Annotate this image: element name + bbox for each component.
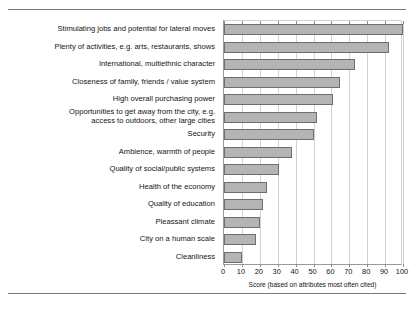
chart-figure: Stimulating jobs and potential for later… <box>0 0 413 309</box>
top-divider-rule <box>8 9 406 10</box>
gridline <box>403 21 404 264</box>
bottom-divider-rule <box>8 293 406 294</box>
bar[interactable] <box>224 94 333 105</box>
bar[interactable] <box>224 42 389 53</box>
category-label: Stimulating jobs and potential for later… <box>0 24 219 33</box>
bar-row[interactable] <box>224 42 403 53</box>
category-label: Quality of social/public systems <box>0 164 219 173</box>
bar[interactable] <box>224 59 355 70</box>
x-tick-label: 10 <box>237 267 245 276</box>
bar-row[interactable] <box>224 24 403 35</box>
bar[interactable] <box>224 234 256 245</box>
bar[interactable] <box>224 129 314 140</box>
bar-row[interactable] <box>224 129 403 140</box>
bar-row[interactable] <box>224 252 403 263</box>
category-label: International, multiethnic character <box>0 59 219 68</box>
x-axis-title: Score (based on attributes most often ci… <box>223 281 402 288</box>
x-tick-label: 50 <box>308 267 316 276</box>
bar-row[interactable] <box>224 182 403 193</box>
bar-row[interactable] <box>224 77 403 88</box>
category-label: Closeness of family, friends / value sys… <box>0 77 219 86</box>
bar[interactable] <box>224 199 263 210</box>
x-tick-label: 70 <box>344 267 352 276</box>
category-label: Health of the economy <box>0 182 219 191</box>
bar[interactable] <box>224 182 267 193</box>
category-label: Opportunities to get away from the city,… <box>0 107 219 126</box>
bar-row[interactable] <box>224 147 403 158</box>
x-tick-label: 80 <box>362 267 370 276</box>
x-tick-label: 0 <box>221 267 225 276</box>
x-tick-label: 90 <box>380 267 388 276</box>
bar-row[interactable] <box>224 234 403 245</box>
category-label: Security <box>0 129 219 138</box>
category-axis-labels: Stimulating jobs and potential for later… <box>0 20 219 265</box>
x-tick-label: 30 <box>273 267 281 276</box>
category-label: Quality of education <box>0 199 219 208</box>
bar[interactable] <box>224 147 292 158</box>
category-label: Plenty of activities, e.g. arts, restaur… <box>0 42 219 51</box>
bar-row[interactable] <box>224 164 403 175</box>
bar[interactable] <box>224 252 242 263</box>
x-tick-label: 40 <box>290 267 298 276</box>
bar-row[interactable] <box>224 94 403 105</box>
bar[interactable] <box>224 164 279 175</box>
bar-row[interactable] <box>224 199 403 210</box>
category-label: City on a human scale <box>0 234 219 243</box>
axis-tick <box>403 21 404 24</box>
bar[interactable] <box>224 77 340 88</box>
bar-row[interactable] <box>224 217 403 228</box>
bar[interactable] <box>224 24 403 35</box>
bar-row[interactable] <box>224 59 403 70</box>
category-label: Pleassant climate <box>0 217 219 226</box>
bar[interactable] <box>224 112 317 123</box>
bar-series <box>224 21 401 264</box>
category-label: Cleanliness <box>0 252 219 261</box>
x-tick-label: 100 <box>396 267 408 276</box>
category-label: Ambience, warmth of people <box>0 147 219 156</box>
x-tick-label: 20 <box>255 267 263 276</box>
bar[interactable] <box>224 217 260 228</box>
x-tick-label: 60 <box>326 267 334 276</box>
plot-area <box>223 20 402 265</box>
category-label: High overall purchasing power <box>0 94 219 103</box>
bar-row[interactable] <box>224 112 403 123</box>
x-axis-tick-labels: 0102030405060708090100 <box>223 267 402 278</box>
